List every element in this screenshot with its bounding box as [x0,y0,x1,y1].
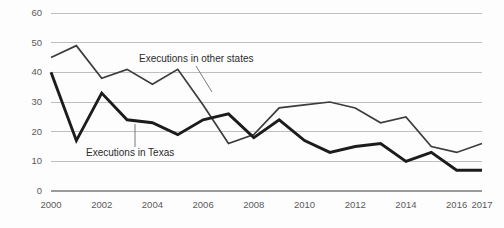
y-tick-label-10: 10 [31,155,42,166]
x-tick-label-2002: 2002 [91,199,112,210]
annotation-label-executions-in-other-states: Executions in other states [139,53,254,64]
x-tick-label-2014: 2014 [395,199,416,210]
x-tick-label-2008: 2008 [243,199,264,210]
y-tick-label-0: 0 [37,185,42,196]
y-tick-label-40: 40 [31,66,42,77]
series-line-executions-in-other-states [51,46,482,153]
x-tick-label-2016: 2016 [446,199,467,210]
x-tick-label-2004: 2004 [142,199,163,210]
x-tick-label-2012: 2012 [345,199,366,210]
x-tick-label-2006: 2006 [193,199,214,210]
y-tick-label-50: 50 [31,37,42,48]
x-tick-label-2017: 2017 [471,199,492,210]
annotation-leader-line-executions-in-other-states [196,66,212,92]
line-chart-container: 0102030405060 20002002200420062008201020… [0,0,504,228]
gridlines-group [51,13,482,191]
y-tick-label-30: 30 [31,96,42,107]
chart-canvas: 0102030405060 20002002200420062008201020… [0,0,504,228]
y-axis-tick-labels: 0102030405060 [31,7,42,196]
annotation-label-executions-in-texas: Executions in Texas [86,147,174,158]
x-tick-label-2010: 2010 [294,199,315,210]
y-tick-label-20: 20 [31,126,42,137]
x-tick-label-2000: 2000 [40,199,61,210]
y-tick-label-60: 60 [31,7,42,18]
x-axis-tick-labels: 2000200220042006200820102012201420162017 [40,199,492,210]
